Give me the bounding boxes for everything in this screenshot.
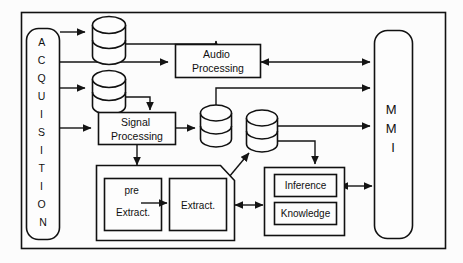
edge-db-audio-to-audio-processing — [125, 41, 216, 44]
node-db-audio-raw[interactable] — [93, 17, 126, 65]
knowledge-label: Knowledge — [281, 208, 331, 219]
diagram-canvas: A C Q U I S I T I O N M M I — [0, 0, 463, 263]
node-db-processed[interactable] — [201, 105, 232, 147]
edge-db-features-to-reasoning — [278, 141, 315, 164]
node-db-features[interactable] — [247, 110, 278, 152]
extract-label: Extract. — [181, 200, 215, 211]
edge-db-signal-to-signal-processing — [125, 97, 150, 110]
node-reasoning-group[interactable]: Inference Knowledge — [265, 168, 345, 236]
node-acquisition[interactable]: A C Q U I S I T I O N — [27, 29, 60, 240]
db-signal-top — [93, 71, 126, 88]
edge-extraction-to-db-features — [229, 153, 249, 177]
node-db-signal-raw[interactable] — [93, 71, 126, 115]
edge-db-processed-to-mmi — [216, 88, 370, 105]
block-diagram: A C Q U I S I T I O N M M I — [0, 0, 463, 263]
node-audio-processing[interactable]: Audio Processing — [176, 45, 261, 78]
inference-label: Inference — [285, 180, 327, 191]
db-features-top — [247, 110, 278, 126]
db-audio-top — [93, 17, 126, 34]
node-signal-processing[interactable]: Signal Processing — [99, 113, 176, 145]
db-processed-top — [201, 105, 232, 121]
node-mmi[interactable]: M M I — [375, 31, 413, 239]
acquisition-label: A C Q U I S I T I O N — [37, 36, 48, 228]
node-extraction-group[interactable]: pre Extract. Extract. — [97, 166, 235, 241]
